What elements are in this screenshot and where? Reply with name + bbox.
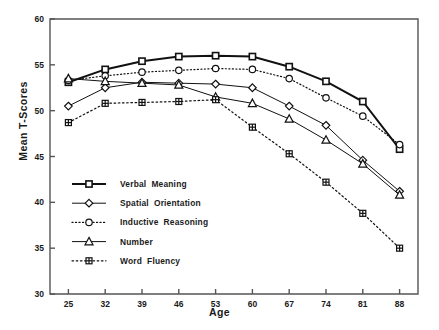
data-point-square — [86, 181, 92, 187]
legend-label: Number — [120, 237, 153, 247]
legend-label: Word Fluency — [120, 256, 180, 266]
legend-label: Inductive Reasoning — [120, 217, 208, 227]
legend-label: Verbal Meaning — [120, 179, 187, 189]
data-point-crossbox — [86, 258, 92, 264]
legend-label: Spatial Orientation — [120, 198, 201, 208]
chart-figure: Mean T-Scores Age 30354045505560 2532394… — [0, 0, 439, 330]
legend-symbols — [0, 0, 439, 330]
data-point-circle — [86, 219, 92, 225]
data-point-diamond — [85, 199, 93, 207]
